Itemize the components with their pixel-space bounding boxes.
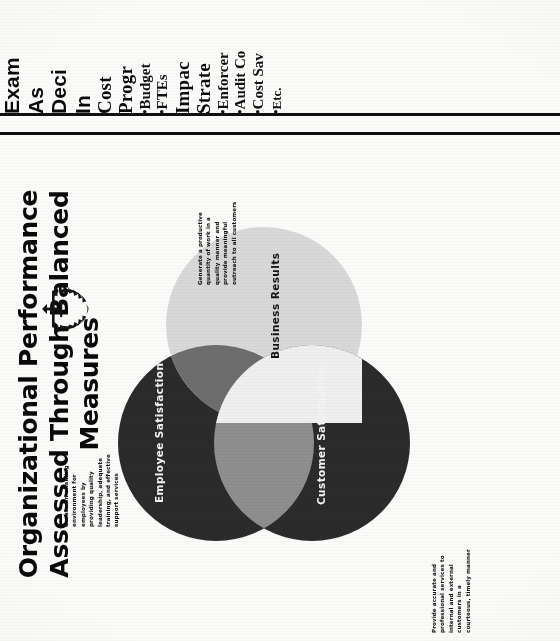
venn-note-business-results: Generate a productive quantity of work i…	[196, 201, 238, 285]
irs-seal-logo	[36, 277, 98, 341]
top-slide-title-line-4: In	[71, 0, 95, 114]
bullet-text: Audit Co	[232, 51, 248, 110]
top-slide-col2-bullet-3: •Etc.	[268, 0, 284, 114]
bullet-text: Budget	[137, 64, 153, 110]
top-slide-col1-bullet-0: •Budget	[137, 0, 155, 114]
bullet-text: Etc.	[269, 87, 284, 109]
venn-note-customer-satisfaction: Provide accurate and professional servic…	[430, 549, 472, 633]
venn-note-employee-satisfaction: Create an enabling environment for emplo…	[62, 453, 121, 527]
bullet-text: Cost Sav	[250, 53, 266, 109]
slide-border-bottom	[0, 132, 560, 135]
top-slide-title-line-2: As	[24, 0, 48, 114]
top-slide-col2-heading-line-2: Strate	[193, 0, 214, 114]
scanned-page: Exam As Deci In Cost Progr •Budget •FTEs…	[0, 0, 560, 641]
slide-border-top	[0, 113, 560, 116]
bullet-text: Enforcer	[215, 52, 231, 109]
venn-diagram: Employee Satisfaction Customer Satisfact…	[118, 215, 418, 545]
top-slide-col1-bullet-1: •FTEs	[154, 0, 172, 114]
main-slide: Organizational Performance Assessed Thro…	[0, 136, 560, 641]
top-slide-col1-heading-line-2: Progr	[115, 0, 136, 114]
top-slide-col1-heading-line-1: Cost	[94, 0, 115, 114]
page-title: Organizational Performance Assessed Thro…	[14, 149, 106, 619]
top-slide-col2-heading-line-1: Impac	[172, 0, 193, 114]
top-slide-col2-bullet-2: •Cost Sav	[250, 0, 268, 114]
bullet-text: FTEs	[154, 74, 170, 109]
top-slide-fragment: Exam As Deci In Cost Progr •Budget •FTEs…	[0, 0, 560, 114]
venn-overlap-all-three	[214, 345, 362, 423]
top-slide-col2-bullet-1: •Audit Co	[232, 0, 250, 114]
venn-label-business-results: Business Results	[268, 253, 283, 359]
top-slide-title-line-3: Deci	[47, 0, 71, 114]
venn-label-customer-satisfaction: Customer Satisfaction	[314, 365, 329, 505]
top-slide-title-line-1: Exam	[0, 0, 24, 114]
venn-label-employee-satisfaction: Employee Satisfaction	[152, 363, 167, 503]
top-slide-col2-bullet-0: •Enforcer	[215, 0, 233, 114]
